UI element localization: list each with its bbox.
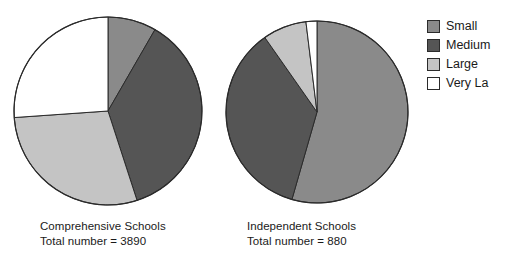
legend-label-large: Large bbox=[446, 57, 478, 71]
legend-label-very-large: Very La bbox=[446, 76, 488, 90]
pie-slice-very-large bbox=[14, 17, 108, 118]
legend-swatch-very-large-icon bbox=[427, 77, 440, 90]
chart-legend: Small Medium Large Very La bbox=[427, 17, 509, 93]
pie-chart-independent-schools bbox=[224, 19, 410, 205]
pie-chart-comprehensive-svg bbox=[12, 15, 204, 207]
legend-swatch-small-icon bbox=[427, 20, 440, 33]
pie-chart-independent-svg bbox=[224, 19, 410, 205]
pie-caption-total-independent: Total number = 880 bbox=[247, 234, 356, 249]
pie-caption-total-comprehensive: Total number = 3890 bbox=[40, 234, 166, 249]
legend-label-medium: Medium bbox=[446, 38, 490, 52]
legend-swatch-medium-icon bbox=[427, 39, 440, 52]
legend-item-medium: Medium bbox=[427, 36, 509, 54]
pie-chart-comprehensive-schools bbox=[12, 15, 204, 207]
legend-label-small: Small bbox=[446, 19, 477, 33]
pie-caption-independent-schools: Independent Schools Total number = 880 bbox=[247, 219, 356, 249]
pie-chart-figure: Comprehensive Schools Total number = 389… bbox=[0, 0, 509, 262]
legend-item-large: Large bbox=[427, 55, 509, 73]
legend-item-small: Small bbox=[427, 17, 509, 35]
pie-caption-comprehensive-schools: Comprehensive Schools Total number = 389… bbox=[40, 219, 166, 249]
pie-caption-title-independent: Independent Schools bbox=[247, 219, 356, 234]
legend-swatch-large-icon bbox=[427, 58, 440, 71]
legend-item-very-large: Very La bbox=[427, 74, 509, 92]
pie-caption-title-comprehensive: Comprehensive Schools bbox=[40, 219, 166, 234]
